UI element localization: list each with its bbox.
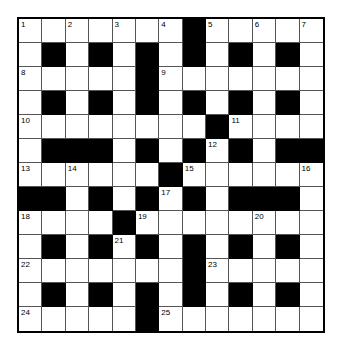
letter-cell[interactable]: 13 <box>19 163 42 187</box>
letter-cell[interactable] <box>276 115 299 139</box>
letter-cell[interactable] <box>66 91 89 115</box>
letter-cell[interactable] <box>66 307 89 331</box>
letter-cell[interactable] <box>300 235 323 259</box>
letter-cell[interactable] <box>89 115 112 139</box>
letter-cell[interactable] <box>89 307 112 331</box>
letter-cell[interactable] <box>253 139 276 163</box>
letter-cell[interactable] <box>113 67 136 91</box>
letter-cell[interactable] <box>42 307 65 331</box>
letter-cell[interactable]: 7 <box>300 19 323 43</box>
letter-cell[interactable] <box>136 115 159 139</box>
letter-cell[interactable]: 2 <box>66 19 89 43</box>
letter-cell[interactable] <box>66 211 89 235</box>
letter-cell[interactable] <box>89 67 112 91</box>
letter-cell[interactable] <box>89 19 112 43</box>
letter-cell[interactable] <box>229 19 252 43</box>
letter-cell[interactable] <box>276 307 299 331</box>
letter-cell[interactable] <box>300 259 323 283</box>
letter-cell[interactable] <box>206 163 229 187</box>
letter-cell[interactable] <box>253 43 276 67</box>
letter-cell[interactable] <box>42 163 65 187</box>
letter-cell[interactable] <box>253 115 276 139</box>
letter-cell[interactable] <box>183 211 206 235</box>
letter-cell[interactable]: 18 <box>19 211 42 235</box>
letter-cell[interactable]: 24 <box>19 307 42 331</box>
letter-cell[interactable]: 8 <box>19 67 42 91</box>
letter-cell[interactable] <box>183 307 206 331</box>
letter-cell[interactable] <box>300 211 323 235</box>
letter-cell[interactable] <box>113 91 136 115</box>
letter-cell[interactable] <box>19 235 42 259</box>
letter-cell[interactable] <box>229 163 252 187</box>
letter-cell[interactable] <box>113 115 136 139</box>
letter-cell[interactable] <box>66 187 89 211</box>
letter-cell[interactable] <box>159 283 182 307</box>
letter-cell[interactable] <box>253 259 276 283</box>
letter-cell[interactable] <box>206 307 229 331</box>
letter-cell[interactable] <box>136 19 159 43</box>
letter-cell[interactable] <box>229 307 252 331</box>
letter-cell[interactable] <box>253 235 276 259</box>
letter-cell[interactable] <box>113 259 136 283</box>
letter-cell[interactable] <box>276 67 299 91</box>
letter-cell[interactable] <box>159 91 182 115</box>
letter-cell[interactable] <box>300 283 323 307</box>
letter-cell[interactable] <box>206 67 229 91</box>
letter-cell[interactable] <box>19 91 42 115</box>
letter-cell[interactable] <box>206 283 229 307</box>
letter-cell[interactable] <box>66 43 89 67</box>
letter-cell[interactable] <box>42 259 65 283</box>
letter-cell[interactable] <box>183 67 206 91</box>
letter-cell[interactable] <box>159 211 182 235</box>
letter-cell[interactable]: 12 <box>206 139 229 163</box>
letter-cell[interactable]: 17 <box>159 187 182 211</box>
letter-cell[interactable] <box>276 19 299 43</box>
letter-cell[interactable] <box>300 187 323 211</box>
letter-cell[interactable] <box>42 19 65 43</box>
letter-cell[interactable] <box>276 211 299 235</box>
letter-cell[interactable]: 22 <box>19 259 42 283</box>
letter-cell[interactable] <box>183 115 206 139</box>
letter-cell[interactable] <box>229 211 252 235</box>
letter-cell[interactable]: 25 <box>159 307 182 331</box>
letter-cell[interactable] <box>66 67 89 91</box>
letter-cell[interactable] <box>42 211 65 235</box>
letter-cell[interactable] <box>206 91 229 115</box>
letter-cell[interactable] <box>159 43 182 67</box>
letter-cell[interactable] <box>206 187 229 211</box>
letter-cell[interactable] <box>66 283 89 307</box>
letter-cell[interactable] <box>253 307 276 331</box>
letter-cell[interactable] <box>19 283 42 307</box>
letter-cell[interactable] <box>113 163 136 187</box>
letter-cell[interactable] <box>300 91 323 115</box>
letter-cell[interactable] <box>42 67 65 91</box>
letter-cell[interactable] <box>159 259 182 283</box>
letter-cell[interactable]: 9 <box>159 67 182 91</box>
letter-cell[interactable] <box>276 259 299 283</box>
letter-cell[interactable] <box>253 283 276 307</box>
letter-cell[interactable] <box>206 211 229 235</box>
letter-cell[interactable] <box>159 139 182 163</box>
letter-cell[interactable] <box>113 283 136 307</box>
letter-cell[interactable] <box>136 163 159 187</box>
letter-cell[interactable] <box>113 307 136 331</box>
letter-cell[interactable] <box>89 211 112 235</box>
letter-cell[interactable] <box>89 163 112 187</box>
letter-cell[interactable] <box>113 43 136 67</box>
letter-cell[interactable] <box>276 163 299 187</box>
letter-cell[interactable]: 19 <box>136 211 159 235</box>
letter-cell[interactable]: 23 <box>206 259 229 283</box>
letter-cell[interactable] <box>66 235 89 259</box>
letter-cell[interactable] <box>300 307 323 331</box>
letter-cell[interactable] <box>206 43 229 67</box>
letter-cell[interactable] <box>19 139 42 163</box>
letter-cell[interactable] <box>66 259 89 283</box>
letter-cell[interactable] <box>229 67 252 91</box>
letter-cell[interactable]: 16 <box>300 163 323 187</box>
letter-cell[interactable]: 10 <box>19 115 42 139</box>
letter-cell[interactable]: 14 <box>66 163 89 187</box>
letter-cell[interactable] <box>253 67 276 91</box>
letter-cell[interactable]: 4 <box>159 19 182 43</box>
letter-cell[interactable] <box>66 115 89 139</box>
letter-cell[interactable] <box>253 91 276 115</box>
